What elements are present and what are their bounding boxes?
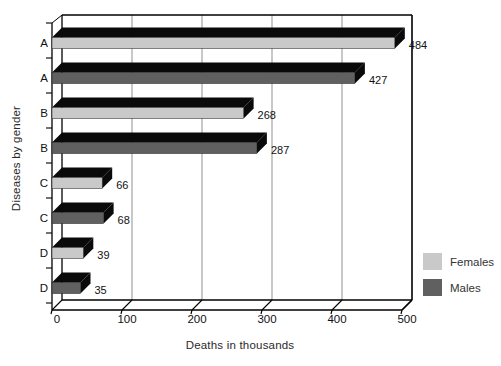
bar-c-females-top-face [52, 168, 112, 178]
legend: Females Males [423, 253, 498, 305]
bar-a-males-front-face [52, 73, 355, 84]
x-tick-label-0: 0 [54, 313, 60, 325]
bar-d-females-front-face [52, 248, 83, 259]
bar-b-females-front-face [52, 108, 244, 119]
legend-label-males: Males [450, 282, 481, 294]
value-label-2: 268 [258, 109, 276, 121]
bar-a-females-front-face [52, 38, 395, 49]
value-label-0: 484 [409, 39, 427, 51]
chart-plot-area: 0100200300400500A484A427B268B287C66C68D3… [0, 0, 501, 366]
bar-c-males-top-face [52, 203, 114, 213]
legend-label-females: Females [450, 256, 494, 268]
bar-c-males-front-face [52, 213, 104, 224]
x-axis-title: Deaths in thousands [140, 339, 340, 351]
category-label-5: C [40, 212, 48, 224]
value-label-3: 287 [271, 144, 289, 156]
x-tick-500 [402, 300, 412, 310]
bar-chart-figure: 0100200300400500A484A427B268B287C66C68D3… [0, 0, 501, 366]
x-tick-400 [332, 300, 342, 310]
x-tick-label-500: 500 [397, 313, 416, 325]
category-label-0: A [40, 37, 48, 49]
x-tick-label-400: 400 [327, 313, 346, 325]
bar-d-males-front-face [52, 283, 81, 294]
bar-a-males-top-face [52, 63, 365, 73]
x-tick-300 [262, 300, 272, 310]
bar-a-females-top-face [52, 28, 405, 38]
category-label-4: C [40, 177, 48, 189]
bar-b-males-top-face [52, 133, 267, 143]
x-tick-0 [52, 300, 62, 310]
top-left-depth-edge [52, 15, 62, 23]
category-label-6: D [40, 247, 48, 259]
category-label-3: B [40, 142, 48, 154]
value-label-1: 427 [369, 74, 387, 86]
x-tick-100 [122, 300, 132, 310]
y-axis-title: Diseases by gender [10, 94, 25, 224]
x-tick-stub-0 [51, 310, 52, 314]
x-tick-label-200: 200 [187, 313, 206, 325]
category-label-1: A [40, 72, 48, 84]
category-label-2: B [40, 107, 48, 119]
bar-b-males-front-face [52, 143, 257, 154]
females-swatch-icon [423, 253, 442, 270]
x-tick-200 [192, 300, 202, 310]
males-swatch-icon [423, 279, 442, 296]
x-tick-label-100: 100 [117, 313, 136, 325]
value-label-6: 39 [97, 249, 109, 261]
value-label-4: 66 [116, 179, 128, 191]
value-label-7: 35 [95, 284, 107, 296]
legend-item-males: Males [423, 279, 498, 296]
value-label-5: 68 [118, 214, 130, 226]
legend-item-females: Females [423, 253, 498, 270]
bar-b-females-top-face [52, 98, 254, 108]
category-label-7: D [40, 282, 48, 294]
bar-c-females-front-face [52, 178, 102, 189]
x-tick-label-300: 300 [257, 313, 276, 325]
